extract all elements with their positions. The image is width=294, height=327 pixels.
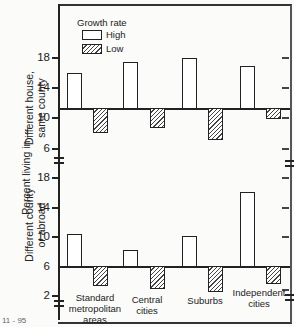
bar-bot-standard-low [93,266,108,286]
legend-swatch-high [82,30,102,40]
tick [52,87,59,89]
axis-break [54,157,64,159]
bar-bot-central-low [150,266,165,289]
axis-break [54,162,64,164]
tick [52,177,59,179]
figure-footnote: 11 - 95 [2,316,26,325]
bar-bot-suburbs-low [208,266,223,292]
y-axis-label-top: Different house, same county [23,58,47,158]
bar-top-independent-low [266,108,281,119]
y-axis-label-line: Different house, [23,58,35,158]
legend-label-high: High [106,29,126,40]
y-axis-label-line: or abroad [35,175,47,275]
category-label-independent: Independent cities [224,287,294,309]
tick [282,236,289,238]
bar-bot-suburbs-high [182,236,197,267]
tick [282,87,289,89]
legend-label-low: Low [106,43,123,54]
bar-top-standard-high [67,73,82,109]
tick [52,207,59,209]
bar-top-independent-high [240,66,255,109]
y-axis-label-line: Different county [23,175,35,275]
bar-bot-independent-high [240,192,255,267]
y-axis-label-bottom: Different county or abroad [23,175,47,275]
tick [282,148,289,150]
bar-bot-independent-low [266,266,281,284]
tick [52,236,59,238]
tick-label: 2 [30,289,50,301]
bar-bot-standard-high [67,234,82,267]
axis-break [285,160,294,162]
y-axis-label-line: same county [35,58,47,158]
tick [282,207,289,209]
bar-top-central-high [123,62,138,109]
category-label-line: cities [224,298,294,309]
tick [52,117,59,119]
category-label-line: Independent [224,287,294,298]
legend-title: Growth rate [77,17,127,28]
axis-break [285,165,294,167]
bar-bot-central-high [123,250,138,267]
bar-top-standard-low [93,108,108,133]
category-label-line: cities [112,305,182,316]
legend-swatch-low [82,44,102,54]
tick [282,177,289,179]
tick [52,57,59,59]
bar-top-central-low [150,108,165,128]
tick [52,148,59,150]
tick [52,295,59,297]
bar-top-suburbs-low [208,108,223,140]
bar-top-suburbs-high [182,58,197,109]
tick [282,117,289,119]
tick [282,57,289,59]
